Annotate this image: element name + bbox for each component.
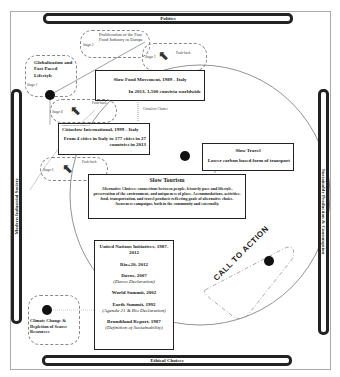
slow-travel-box: Slow Travel Lower carbon based form of t… (202, 143, 294, 171)
cittaslow-charter-label: Cittaslow Charter (143, 107, 168, 111)
pushback-arrow-icon: ⬉ (62, 162, 73, 175)
stage1-label: Stage 1 (27, 83, 37, 87)
cittaslow-box: Founded as direct offshoot of Cittaslow … (58, 123, 150, 155)
stage5-label: Stage 5 (43, 168, 53, 172)
bar-modern-industrial-society: Modern Industrial Society (11, 89, 22, 324)
slow-travel-title: Slow Travel (203, 148, 293, 154)
stage4-pushback: Push-back (92, 101, 107, 105)
un-item: World Summit, 2002 (95, 290, 173, 296)
stage3-label: Stage 3 (145, 55, 155, 59)
stage1-title: Globalization and Fast Paced Lifestyle (34, 60, 76, 79)
cittaslow-subtitle: From 4 cities in Italy to 177 cities in … (59, 136, 149, 148)
un-item: Davos, 2007 (Davos Declaration) (95, 273, 173, 286)
slow-tourism-body: Alternative Choices: connections between… (89, 185, 245, 208)
bar-ethical-label: Ethical Choices (150, 358, 183, 363)
stage1-dot-icon (45, 90, 55, 100)
slow-food-box: Slow Food Movement, 1989 - Italy In 2013… (95, 70, 205, 101)
stage2-label: Stage 2 (83, 43, 93, 47)
bar-sustainable-production: Sustainable Production & Consumption (318, 89, 329, 335)
slow-tourism-box: Slow Tourism Alternative Choices: connec… (88, 174, 246, 219)
un-title: United Nations Initiatives, 1987-2012 (95, 244, 173, 257)
un-item: Rio+20, 2012 (95, 262, 173, 268)
bar-modern-label: Modern Industrial Society (14, 178, 19, 234)
slow-tourism-title: Slow Tourism (89, 177, 245, 185)
stage5-pushback: Push-back (82, 160, 97, 164)
un-initiatives-box: United Nations Initiatives, 1987-2012 Ri… (94, 240, 174, 350)
slow-travel-subtitle: Lower carbon based form of transport (203, 158, 293, 164)
slow-food-title: Slow Food Movement, 1989 - Italy (96, 77, 204, 83)
slow-food-subtitle: In 2013, 1,500 convivia worldwide (96, 89, 204, 95)
un-item: Earth Summit, 1992 (Agenda 21 & Rio Decl… (95, 302, 173, 315)
bar-sustainable-label: Sustainable Production & Consumption (321, 169, 326, 254)
pushback-arrow-icon: ⬉ (70, 104, 81, 117)
bar-politics-label: Politics (160, 16, 176, 21)
un-item: Brundtland Report, 1987 (Definition of S… (95, 319, 173, 332)
call-to-action-dot-icon (264, 256, 274, 266)
climate-title: Climate Change & Depletion of Scarce Res… (30, 318, 80, 335)
bar-ethical-choices: Ethical Choices (42, 355, 292, 366)
bar-politics: Politics (43, 13, 293, 24)
stage4-label: Stage 4 (52, 110, 62, 114)
cittaslow-title: Cittaslow International, 1999 - Italy (59, 127, 149, 133)
stage2-title: Proliferation of the Fast Food Industry … (99, 32, 149, 43)
slow-travel-dot-icon (180, 151, 190, 161)
stage3-pushback: Push-back (176, 51, 191, 55)
climate-dot-icon (42, 305, 52, 315)
pushback-arrow-icon: ⬉ (158, 49, 169, 62)
